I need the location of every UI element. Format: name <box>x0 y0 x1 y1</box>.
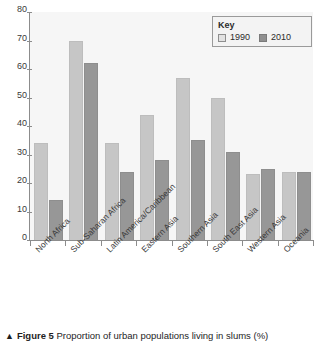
caption-description: Proportion of urban populations living i… <box>54 330 268 341</box>
legend-swatch-1990-icon <box>218 34 226 42</box>
x-axis-tick-mark <box>65 241 66 246</box>
figure-container: 01020304050607080 North AfricaSub-Sahara… <box>0 0 323 347</box>
x-axis-tick-mark <box>313 241 314 246</box>
bar-1990[interactable] <box>176 78 190 240</box>
x-axis-tick-mark <box>101 241 102 246</box>
chart-legend: Key 1990 2010 <box>212 16 312 47</box>
bar-1990[interactable] <box>69 41 83 241</box>
x-axis-tick-mark <box>30 241 31 246</box>
y-axis-tick-label: 60 <box>17 62 27 71</box>
y-axis-tick-label: 80 <box>17 5 27 14</box>
caption-triangle-icon: ▲ <box>5 331 14 341</box>
y-axis-tick-label: 20 <box>17 176 27 185</box>
x-axis-tick-mark <box>172 241 173 246</box>
y-axis-tick-label: 40 <box>17 119 27 128</box>
legend-swatch-2010-icon <box>259 34 267 42</box>
bar-group <box>30 12 65 240</box>
y-axis-tick-label: 70 <box>17 34 27 43</box>
legend-title: Key <box>218 20 306 31</box>
caption-figure-number: Figure 5 <box>17 330 54 341</box>
bar-group <box>65 12 100 240</box>
bar-1990[interactable] <box>34 143 48 240</box>
y-axis-tick-label: 50 <box>17 91 27 100</box>
legend-label-1990: 1990 <box>230 33 250 42</box>
bar-1990[interactable] <box>105 143 119 240</box>
legend-entry-1990[interactable]: 1990 <box>218 33 250 42</box>
legend-entry-2010[interactable]: 2010 <box>259 33 291 42</box>
y-axis-tick-label: 30 <box>17 148 27 157</box>
legend-entries: 1990 2010 <box>218 33 306 42</box>
legend-label-2010: 2010 <box>271 33 291 42</box>
figure-caption: ▲Figure 5 Proportion of urban population… <box>5 330 321 342</box>
y-axis-tick-label: 10 <box>17 205 27 214</box>
x-axis-tick-mark <box>136 241 137 246</box>
x-axis-tick-mark <box>207 241 208 246</box>
x-axis-tick-mark <box>278 241 279 246</box>
bar-2010[interactable] <box>84 63 98 240</box>
bar-1990[interactable] <box>282 172 296 240</box>
x-axis-tick-mark <box>242 241 243 246</box>
bar-group <box>172 12 207 240</box>
